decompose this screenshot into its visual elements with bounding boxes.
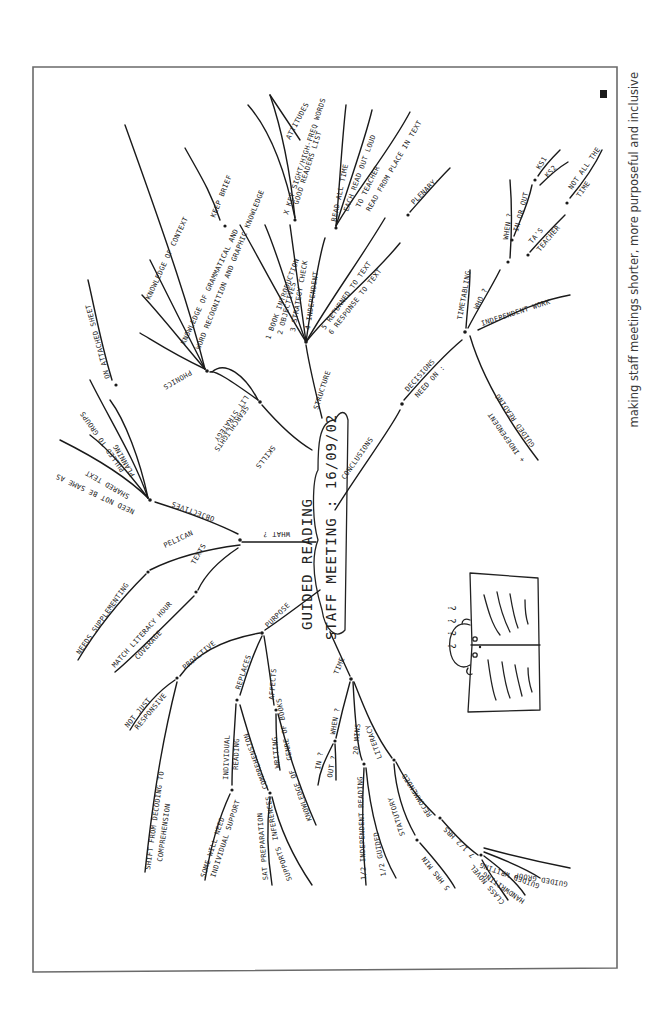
- svg-text:20 mins: 20 mins: [352, 723, 362, 755]
- svg-text:Purpose: Purpose: [264, 601, 292, 629]
- branch-structure: Structure 1 Book introduction 2 Objectiv…: [240, 95, 450, 418]
- svg-text:Skills: Skills: [254, 444, 277, 470]
- svg-text:Match literacy hour: Match literacy hour: [111, 600, 175, 669]
- svg-text:Replaces: Replaces: [234, 654, 253, 691]
- svg-text:Objectives: Objectives: [171, 500, 216, 523]
- page-caption: making staff meetings shorter, more purp…: [627, 72, 643, 602]
- svg-text:Pelican: Pelican: [162, 529, 194, 550]
- section-marker: [600, 90, 607, 98]
- svg-text:Timetabling: Timetabling: [456, 270, 473, 320]
- svg-text:5 Returned to text: 5 Returned to text: [320, 260, 373, 332]
- svg-text:Word recognition and graphic k: Word recognition and graphic knowledge: [194, 189, 266, 351]
- center-subtitle: Staff Meeting : 16/09/02: [323, 414, 339, 640]
- svg-text:In ?: In ?: [314, 751, 325, 770]
- svg-text:Plenary.: Plenary.: [410, 175, 441, 206]
- mind-map-canvas: Guided Reading Staff Meeting : 16/09/02 …: [0, 0, 672, 1016]
- svg-text:1/2 Independent reading: 1/2 Independent reading: [356, 776, 368, 880]
- svg-text:Proactive: Proactive: [181, 639, 217, 671]
- svg-text:Who ?: Who ?: [473, 287, 490, 311]
- svg-text:Supports: Supports: [274, 845, 294, 882]
- svg-text:Affects: Affects: [268, 668, 278, 700]
- branch-time: Time When ? In ? Out ? 20 mins 1/2 Indep…: [314, 632, 570, 906]
- svg-text:Writing: Writing: [271, 736, 282, 768]
- svg-text:What ?: What ?: [263, 530, 290, 538]
- question-marks: ? ? ? ?: [446, 605, 457, 649]
- svg-text:Searchlights: Searchlights: [212, 404, 250, 453]
- svg-text:1/2 Guided: 1/2 Guided: [372, 831, 388, 877]
- svg-text:Comprehension: Comprehension: [242, 732, 270, 790]
- svg-text:Independent work: Independent work: [480, 298, 552, 328]
- svg-text:7 1/2 hrs: 7 1/2 hrs: [442, 825, 476, 859]
- svg-text:In or out: In or out: [512, 191, 530, 233]
- reading-child-illustration: ? ? ? ?: [446, 573, 540, 712]
- svg-text:Time: Time: [332, 656, 346, 676]
- svg-text:Knowledge of: Knowledge of: [288, 768, 314, 822]
- svg-text:Guided reading: Guided reading: [494, 392, 537, 448]
- svg-text:On attached sheet: On attached sheet: [84, 303, 112, 380]
- svg-text:reading: reading: [232, 738, 241, 770]
- svg-text:Recommended: Recommended: [401, 772, 434, 818]
- svg-text:5 hrs min: 5 hrs min: [420, 855, 451, 892]
- svg-text:Individual: Individual: [222, 735, 232, 780]
- svg-text:Phonics: Phonics: [162, 368, 193, 391]
- svg-text:Statutory: Statutory: [387, 795, 407, 837]
- scanned-page: Guided Reading Staff Meeting : 16/09/02 …: [0, 0, 672, 1016]
- svg-text:Knowledge of context: Knowledge of context: [145, 215, 191, 301]
- svg-text:Keep brief: Keep brief: [209, 174, 233, 219]
- svg-text:Needs supplementing: Needs supplementing: [75, 581, 131, 656]
- center-title: Guided Reading: [299, 498, 315, 630]
